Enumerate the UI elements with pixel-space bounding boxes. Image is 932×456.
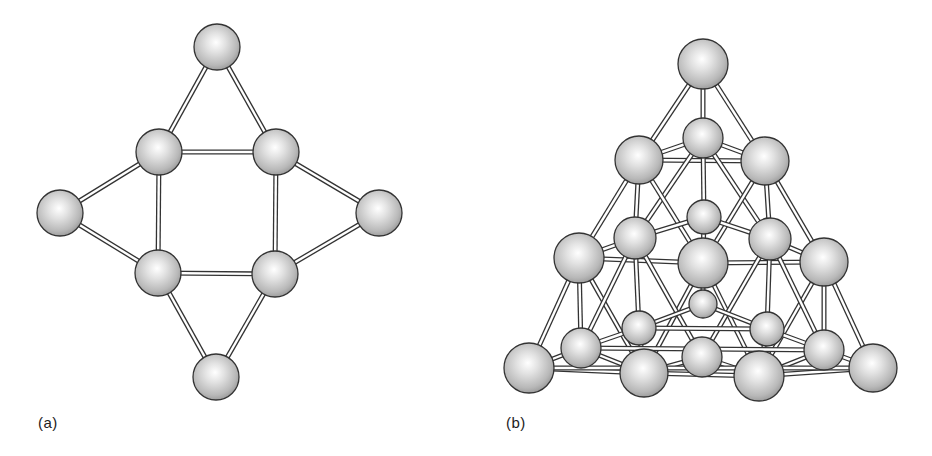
- atom-bl: [504, 343, 554, 393]
- atom-c: [678, 238, 728, 288]
- atom-lmr: [750, 312, 784, 346]
- atom-ul: [136, 129, 182, 175]
- atom-b1: [683, 118, 723, 158]
- atom-l2: [554, 233, 604, 283]
- atom-ml: [614, 217, 656, 259]
- panel-b-cluster: [504, 39, 897, 401]
- panel-b-label: (b): [506, 414, 526, 431]
- panel-a-label: (a): [38, 414, 58, 431]
- atom-ur: [253, 129, 299, 175]
- panel-a-bonds: [60, 47, 379, 377]
- atom-l1: [615, 136, 663, 184]
- atom-r1: [741, 137, 789, 185]
- atom-b3: [689, 290, 717, 318]
- atom-bmr: [734, 351, 784, 401]
- atom-right: [356, 190, 402, 236]
- atom-ll: [135, 250, 181, 296]
- cluster-structures-figure: [0, 0, 932, 456]
- atom-r2: [800, 238, 848, 286]
- panel-a-atoms: [37, 24, 402, 400]
- atom-lml: [622, 311, 656, 345]
- atom-br: [849, 344, 897, 392]
- atom-rb: [804, 330, 844, 370]
- atom-lb: [561, 328, 601, 368]
- atom-top: [194, 24, 240, 70]
- atom-bottom: [193, 354, 239, 400]
- atom-apex: [678, 39, 728, 89]
- atom-lr: [252, 251, 298, 297]
- atom-left: [37, 190, 83, 236]
- bond-highlight: [639, 328, 767, 329]
- atom-bml: [620, 349, 668, 397]
- atom-bc: [682, 337, 722, 377]
- panel-a-cluster: [37, 24, 402, 400]
- atom-b2: [687, 200, 721, 234]
- atom-mr: [749, 218, 791, 260]
